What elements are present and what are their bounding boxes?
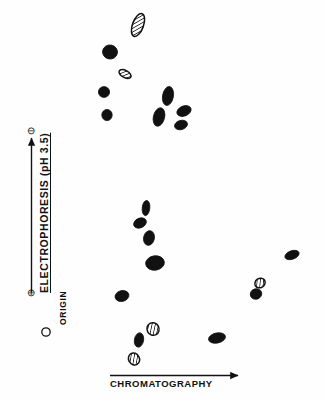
peptide-spot <box>114 289 130 303</box>
origin-label: ORIGIN <box>58 291 68 325</box>
origin-marker-icon <box>42 328 50 336</box>
peptide-spot <box>118 68 133 80</box>
peptide-spot <box>142 230 156 247</box>
peptide-spot <box>175 104 192 119</box>
peptide-spot <box>208 331 227 344</box>
peptide-spot <box>145 255 166 272</box>
peptide-spot <box>284 249 301 262</box>
peptide-spot <box>98 87 109 98</box>
peptide-spot <box>129 12 148 38</box>
peptide-spot <box>141 200 150 216</box>
peptide-spot <box>101 44 118 60</box>
peptide-spot <box>102 109 112 120</box>
peptide-spot <box>173 119 188 131</box>
spot-layer <box>98 12 300 367</box>
peptide-map-figure: ELECTROPHORESIS (pH 3.5) ORIGIN ⊖ ⊕ CHRO… <box>0 0 325 400</box>
electrophoresis-axis-label: ELECTROPHORESIS (pH 3.5) <box>38 133 50 293</box>
peptide-spot <box>133 332 145 348</box>
peptide-spot <box>249 287 263 301</box>
peptide-spot <box>253 276 267 290</box>
minus-circle-icon: ⊖ <box>27 126 35 136</box>
plus-circle-icon: ⊕ <box>27 288 35 298</box>
chromatography-axis-label: CHROMATOGRAPHY <box>110 378 213 389</box>
peptide-spot <box>151 107 166 128</box>
peptide-spot <box>161 86 175 107</box>
peptide-spot <box>145 321 162 338</box>
peptide-spot <box>132 216 148 230</box>
peptide-spot <box>126 351 142 367</box>
